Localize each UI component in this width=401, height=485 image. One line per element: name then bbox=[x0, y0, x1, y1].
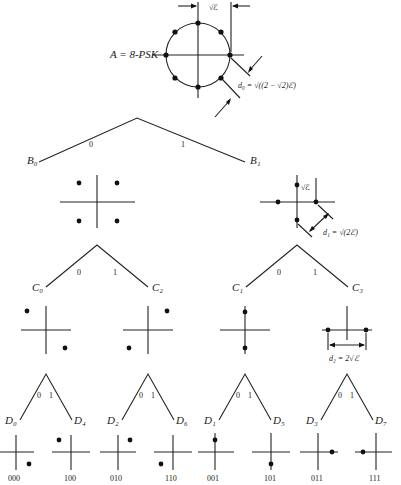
branch-label: 0 bbox=[139, 391, 143, 400]
code-label: 010 bbox=[110, 474, 122, 483]
C1-constellation bbox=[220, 306, 270, 354]
branch-label: 0 bbox=[77, 268, 81, 277]
B0-constellation bbox=[60, 175, 135, 228]
branch-label: 0 bbox=[338, 391, 342, 400]
code-label: 111 bbox=[369, 474, 380, 483]
node-D4: D₄ bbox=[73, 414, 86, 426]
D1-constellation bbox=[198, 433, 234, 470]
D4-constellation bbox=[52, 435, 90, 470]
node-D6: D₆ bbox=[175, 414, 188, 426]
node-D7: D₇ bbox=[374, 414, 387, 426]
C0-constellation bbox=[21, 306, 71, 354]
node-B0: B₀ bbox=[27, 154, 38, 166]
d2-label: d₂ = 2√ℰ bbox=[329, 354, 360, 363]
D3-constellation bbox=[300, 433, 338, 470]
branch-label: 1 bbox=[181, 140, 185, 149]
B1-spacing-label: √ℰ bbox=[301, 183, 310, 192]
code-label: 101 bbox=[264, 474, 276, 483]
d1-label: d₁ = √(2ℰ) bbox=[323, 228, 358, 237]
branch-label: 1 bbox=[151, 391, 155, 400]
node-C0: C₀ bbox=[32, 281, 43, 293]
node-C3: C₃ bbox=[352, 281, 363, 293]
branch-label: 1 bbox=[313, 268, 317, 277]
node-C2: C₂ bbox=[152, 281, 163, 293]
level3-branches bbox=[321, 374, 373, 420]
root-constellation bbox=[152, 2, 262, 117]
D2-constellation bbox=[100, 435, 136, 470]
node-C1: C₁ bbox=[232, 281, 243, 293]
D7-constellation bbox=[355, 433, 392, 470]
C2-constellation bbox=[123, 306, 173, 354]
branch-label: 1 bbox=[350, 391, 354, 400]
level3-branches bbox=[20, 374, 72, 420]
branch-label: 1 bbox=[49, 391, 53, 400]
node-D1: D₁ bbox=[203, 414, 216, 426]
level3-branches bbox=[122, 374, 174, 420]
code-label: 100 bbox=[64, 474, 76, 483]
D5-constellation bbox=[252, 433, 290, 470]
level3-branches bbox=[219, 374, 271, 420]
branch-label: 0 bbox=[236, 391, 240, 400]
node-D3: D₃ bbox=[305, 414, 318, 426]
branch-label: 1 bbox=[113, 268, 117, 277]
root-label: A = 8-PSK bbox=[109, 48, 159, 60]
branch-label: 1 bbox=[248, 391, 252, 400]
branch-label: 0 bbox=[37, 391, 41, 400]
branch-label: 0 bbox=[89, 140, 93, 149]
level2-branches-right bbox=[246, 245, 348, 287]
d0-label: d₀ = √((2 − √2)ℰ) bbox=[238, 81, 296, 90]
root-spacing-label: √ℰ bbox=[209, 3, 218, 12]
node-B1: B₁ bbox=[250, 154, 261, 166]
level2-branches-left bbox=[46, 245, 148, 287]
code-label: 110 bbox=[165, 474, 177, 483]
D0-constellation bbox=[0, 435, 34, 470]
code-label: 011 bbox=[311, 474, 323, 483]
node-D0: D₀ bbox=[4, 414, 17, 426]
level1-branches bbox=[39, 118, 245, 162]
C3-constellation bbox=[322, 306, 372, 350]
node-D5: D₅ bbox=[272, 414, 285, 426]
code-label: 000 bbox=[8, 474, 20, 483]
branch-label: 0 bbox=[277, 268, 281, 277]
node-D2: D₂ bbox=[106, 414, 119, 426]
D6-constellation bbox=[154, 435, 192, 470]
code-label: 001 bbox=[207, 474, 219, 483]
set-partition-diagram: A = 8-PSK √ℰ d₀ = √((2 − √2)ℰ) 0 1 B₀ B₁… bbox=[0, 0, 401, 485]
